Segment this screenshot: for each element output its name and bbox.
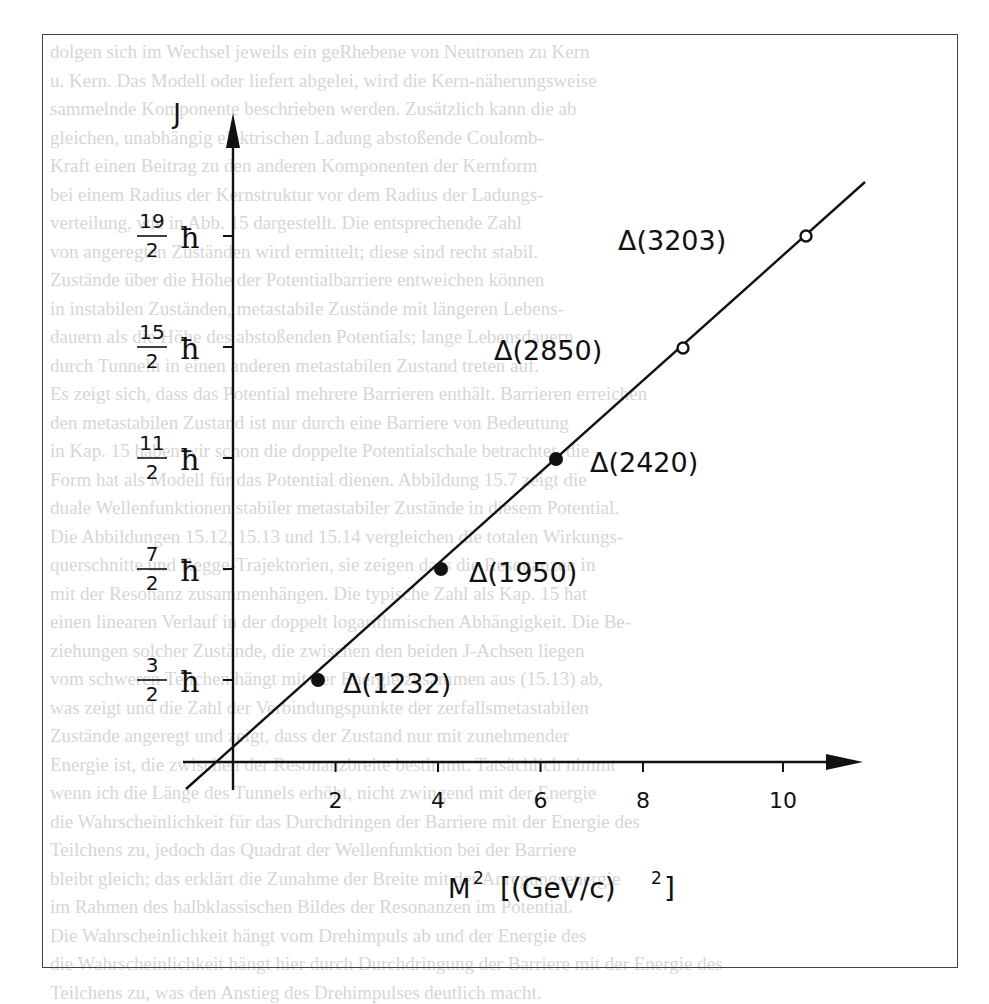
- svg-text:2: 2: [146, 460, 159, 484]
- svg-text:ħ: ħ: [180, 331, 199, 366]
- point-label: Δ(1232): [343, 668, 451, 699]
- y-tick-3-2: 3 2 ħ: [137, 653, 233, 706]
- x-tick-label: 4: [431, 788, 445, 813]
- svg-text:ħ: ħ: [180, 442, 199, 477]
- y-ticks: 3 2 ħ 7 2 ħ 11 2 ħ 15 2 ħ: [137, 209, 233, 706]
- svg-text:7: 7: [146, 542, 159, 566]
- data-point-filled: [434, 562, 448, 576]
- svg-text:M: M: [448, 874, 470, 904]
- svg-text:11: 11: [139, 431, 164, 455]
- x-axis-label: M 2 [(GeV/c) 2 ]: [448, 868, 675, 905]
- data-point-open: [678, 343, 689, 354]
- y-tick-11-2: 11 2 ħ: [137, 431, 233, 484]
- svg-text:[(GeV/c): [(GeV/c): [500, 872, 616, 905]
- point-label: Δ(1950): [469, 557, 577, 588]
- x-axis: [183, 754, 863, 770]
- svg-text:]: ]: [664, 872, 675, 905]
- data-point-filled: [311, 673, 325, 687]
- y-tick-7-2: 7 2 ħ: [137, 542, 233, 595]
- y-tick-19-2: 19 2 ħ: [137, 209, 233, 262]
- svg-text:2: 2: [473, 868, 484, 888]
- point-label: Δ(2420): [590, 447, 698, 478]
- point-labels: Δ(1232) Δ(1950) Δ(2420) Δ(2850) Δ(3203): [343, 225, 726, 699]
- data-points: [311, 231, 812, 688]
- x-tick-label: 2: [329, 788, 343, 813]
- y-axis-arrow-icon: [226, 113, 240, 148]
- svg-text:3: 3: [146, 653, 159, 677]
- data-point-filled: [549, 452, 563, 466]
- data-point-open: [801, 231, 812, 242]
- regge-trajectory-line: [186, 182, 865, 789]
- x-tick-label: 10: [769, 788, 797, 813]
- svg-text:ħ: ħ: [180, 220, 199, 255]
- y-axis: [226, 113, 240, 790]
- svg-text:ħ: ħ: [180, 664, 199, 699]
- svg-text:19: 19: [139, 209, 164, 233]
- y-tick-15-2: 15 2 ħ: [137, 320, 233, 373]
- svg-text:2: 2: [146, 682, 159, 706]
- svg-text:2: 2: [146, 349, 159, 373]
- point-label: Δ(3203): [618, 225, 726, 256]
- point-label: Δ(2850): [494, 335, 602, 366]
- svg-text:2: 2: [651, 868, 662, 888]
- y-axis-label: J: [171, 99, 181, 129]
- x-tick-label: 8: [636, 788, 650, 813]
- x-axis-arrow-icon: [826, 754, 863, 770]
- svg-text:15: 15: [139, 320, 164, 344]
- svg-text:ħ: ħ: [180, 553, 199, 588]
- x-ticks: 2 4 6 8 10: [329, 762, 798, 813]
- x-tick-label: 6: [534, 788, 548, 813]
- svg-text:2: 2: [146, 571, 159, 595]
- regge-plot: 2 4 6 8 10 3 2 ħ 7 2 ħ 11 2 ħ: [0, 0, 989, 1004]
- svg-text:2: 2: [146, 238, 159, 262]
